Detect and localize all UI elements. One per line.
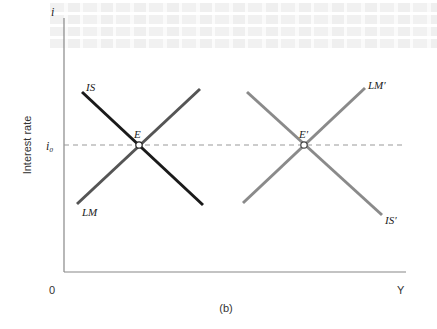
is-prime-curve [247, 92, 382, 215]
lm-label: LM [81, 206, 98, 218]
equilibrium-e-prime-label: E′ [298, 128, 309, 140]
islm-diagram: i i₀ Interest rate IS LM E LM′ IS′ E′ 0 … [0, 0, 437, 329]
equilibrium-e-prime-marker [301, 142, 307, 148]
panel-label: (b) [219, 302, 232, 314]
i0-tick-label: i₀ [46, 139, 54, 153]
is-curve [82, 92, 203, 205]
x-axis-symbol: Y [397, 284, 405, 296]
equilibrium-e-label: E [133, 128, 141, 140]
lm-prime-label: LM′ [367, 79, 386, 91]
is-prime-label: IS′ [384, 214, 397, 226]
origin-label: 0 [49, 284, 55, 296]
is-label: IS [85, 81, 96, 93]
y-axis-title: Interest rate [21, 116, 33, 175]
equilibrium-e-marker [136, 142, 142, 148]
y-axis-symbol: i [51, 5, 54, 19]
